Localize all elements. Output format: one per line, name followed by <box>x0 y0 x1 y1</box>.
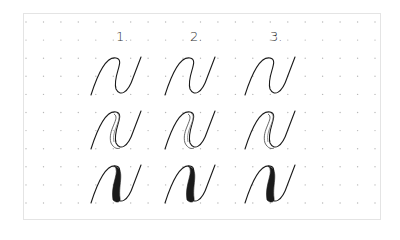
column-label-2: 2. <box>190 29 202 44</box>
column-label-3: 3. <box>270 29 282 44</box>
letter-row3-col1 <box>91 165 141 203</box>
letter-row3-col2 <box>165 165 215 203</box>
letter-row1-col2 <box>165 57 215 95</box>
letter-row2-col3 <box>245 111 295 149</box>
letter-row1-col3 <box>245 57 295 95</box>
letter-row2-col1 <box>91 111 141 149</box>
column-label-1: 1. <box>116 29 128 44</box>
letter-row2-col2 <box>165 111 215 149</box>
letter-row1-col1 <box>91 57 141 95</box>
letter-row3-col3 <box>245 165 295 203</box>
dot-grid <box>25 21 375 203</box>
